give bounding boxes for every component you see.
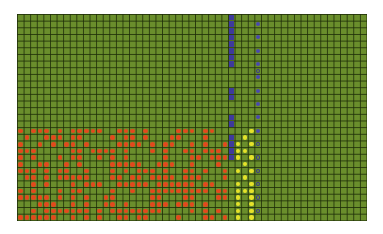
orange-piece — [130, 182, 135, 187]
orange-piece — [91, 182, 96, 187]
orange-piece — [84, 142, 89, 147]
yellow-piece — [249, 182, 253, 186]
yellow-piece — [249, 195, 253, 199]
orange-piece — [77, 149, 82, 154]
orange-piece — [38, 142, 43, 147]
blue-marker — [256, 35, 260, 39]
orange-piece — [157, 162, 162, 167]
orange-piece — [51, 142, 56, 147]
orange-piece — [44, 135, 49, 140]
orange-piece — [216, 149, 221, 154]
orange-piece — [44, 209, 49, 214]
orange-piece — [124, 142, 129, 147]
orange-piece — [64, 162, 69, 167]
orange-piece — [31, 182, 36, 187]
orange-piece — [44, 215, 49, 220]
orange-piece — [150, 202, 155, 207]
orange-piece — [130, 175, 135, 180]
orange-piece — [97, 209, 102, 214]
game-board[interactable] — [17, 14, 367, 221]
orange-piece — [203, 142, 208, 147]
orange-piece — [190, 202, 195, 207]
orange-piece — [130, 162, 135, 167]
orange-piece — [137, 215, 142, 220]
orange-piece — [130, 135, 135, 140]
blue-block — [229, 21, 235, 27]
orange-piece — [143, 215, 148, 220]
orange-piece — [18, 215, 23, 220]
orange-piece — [110, 175, 115, 180]
orange-piece — [176, 129, 181, 134]
orange-piece — [44, 129, 49, 134]
orange-piece — [58, 169, 63, 174]
orange-piece — [64, 142, 69, 147]
orange-piece — [124, 169, 129, 174]
blue-block — [229, 115, 235, 121]
orange-piece — [71, 202, 76, 207]
orange-piece — [25, 175, 30, 180]
orange-piece — [77, 162, 82, 167]
orange-piece — [25, 215, 30, 220]
orange-piece — [150, 175, 155, 180]
orange-piece — [170, 162, 175, 167]
orange-piece — [18, 142, 23, 147]
orange-piece — [117, 162, 122, 167]
orange-piece — [77, 155, 82, 160]
yellow-piece — [243, 162, 247, 166]
orange-piece — [170, 142, 175, 147]
blue-block — [229, 15, 235, 21]
orange-piece — [58, 129, 63, 134]
orange-piece — [51, 215, 56, 220]
blue-block — [229, 35, 235, 41]
orange-piece — [130, 142, 135, 147]
orange-piece — [190, 169, 195, 174]
yellow-piece — [236, 182, 240, 186]
orange-piece — [110, 189, 115, 194]
orange-piece — [71, 182, 76, 187]
orange-piece — [91, 149, 96, 154]
orange-piece — [38, 215, 43, 220]
orange-piece — [84, 182, 89, 187]
orange-piece — [31, 189, 36, 194]
blue-block — [229, 88, 235, 94]
yellow-piece — [249, 202, 253, 206]
blue-ring-marker — [256, 155, 260, 159]
orange-piece — [77, 189, 82, 194]
orange-piece — [97, 149, 102, 154]
blue-marker — [256, 89, 260, 93]
orange-piece — [25, 169, 30, 174]
yellow-piece — [236, 202, 240, 206]
orange-piece — [137, 182, 142, 187]
orange-piece — [84, 169, 89, 174]
orange-piece — [223, 142, 228, 147]
orange-piece — [84, 202, 89, 207]
orange-piece — [124, 162, 129, 167]
orange-piece — [163, 169, 168, 174]
orange-piece — [157, 195, 162, 200]
orange-piece — [58, 189, 63, 194]
orange-piece — [84, 129, 89, 134]
orange-piece — [31, 195, 36, 200]
orange-piece — [223, 155, 228, 160]
orange-piece — [31, 215, 36, 220]
orange-piece — [31, 129, 36, 134]
orange-piece — [143, 182, 148, 187]
yellow-piece — [236, 149, 240, 153]
orange-piece — [97, 215, 102, 220]
orange-piece — [84, 215, 89, 220]
orange-piece — [130, 209, 135, 214]
orange-piece — [18, 129, 23, 134]
orange-piece — [210, 149, 215, 154]
orange-piece — [170, 135, 175, 140]
yellow-piece — [243, 149, 247, 153]
orange-piece — [210, 129, 215, 134]
orange-piece — [104, 149, 109, 154]
orange-piece — [64, 169, 69, 174]
orange-piece — [31, 175, 36, 180]
orange-piece — [130, 129, 135, 134]
orange-piece — [71, 155, 76, 160]
orange-piece — [18, 189, 23, 194]
orange-piece — [124, 155, 129, 160]
blue-marker — [256, 22, 260, 26]
orange-piece — [18, 155, 23, 160]
